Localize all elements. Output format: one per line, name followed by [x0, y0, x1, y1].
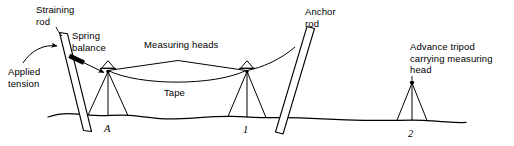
- tripod-station-2: [397, 80, 427, 120]
- tape-segment-1-to-anchor: [247, 47, 295, 71]
- straining-rod-label: Straining rod: [36, 4, 74, 27]
- tripod-1-apex-dot: [245, 70, 248, 73]
- station-label-A: A: [104, 123, 110, 134]
- station-label-2: 2: [408, 128, 413, 139]
- applied-tension-arrow: [23, 46, 57, 63]
- tape-chord-A-to-1: [108, 61, 246, 71]
- measuring-head-1: [241, 61, 254, 68]
- station-label-1: 1: [243, 124, 248, 135]
- straining-rod-leader: [56, 27, 62, 36]
- measuring-heads-label: Measuring heads: [144, 39, 218, 51]
- ground-line: [48, 114, 466, 123]
- tripod-A-leg-left: [88, 72, 108, 116]
- tape-label: Tape: [164, 87, 185, 99]
- tripod-station-1: [228, 61, 266, 118]
- tripod-A-apex-dot: [106, 70, 109, 73]
- advance-tripod-label: Advance tripod carrying measuring head: [410, 41, 493, 76]
- tripod-2-leg-right: [412, 83, 427, 120]
- measuring-head-A: [102, 61, 115, 68]
- tripod-A-leg-right: [108, 72, 128, 116]
- anchor-rod-label: Anchor rod: [305, 6, 336, 29]
- tripod-2-leg-left: [397, 83, 412, 120]
- tripod-1-leg-right: [247, 72, 266, 118]
- tripod-2-apex-dot: [410, 80, 414, 84]
- tripod-1-leg-left: [228, 72, 247, 117]
- figure-canvas: Straining rod Spring balance Applied ten…: [0, 0, 514, 146]
- tape-catenary-A-to-1: [108, 71, 246, 83]
- spring-balance-label: Spring balance: [72, 30, 106, 53]
- applied-tension-label: Applied tension: [8, 66, 40, 89]
- tripod-station-A: [88, 61, 128, 116]
